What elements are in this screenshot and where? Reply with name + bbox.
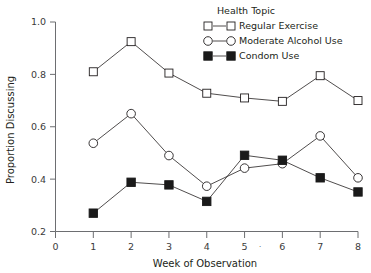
series-1-open-circle-marker bbox=[240, 164, 249, 173]
x-tick-labels: 012345678 bbox=[52, 241, 361, 252]
series-1-open-circle-marker bbox=[89, 139, 98, 148]
series-regular-exercise bbox=[89, 38, 362, 106]
series-0-open-square-marker bbox=[165, 69, 173, 77]
tick-5-annotation: · bbox=[259, 243, 261, 251]
legend-label-1: Moderate Alcohol Use bbox=[239, 35, 343, 46]
y-tick-labels: 0.20.40.60.81.0 bbox=[31, 16, 46, 237]
legend-title: Health Topic bbox=[217, 5, 275, 16]
series-2-filled-square-marker bbox=[127, 178, 135, 186]
series-2-filled-square-marker bbox=[316, 174, 324, 182]
x-axis-title: Week of Observation bbox=[153, 258, 257, 269]
x-tick-label: 4 bbox=[204, 241, 210, 252]
x-tick-marks bbox=[56, 232, 359, 239]
series-0-open-square-marker bbox=[203, 89, 211, 97]
y-tick-label: 0.8 bbox=[31, 69, 46, 80]
chart-canvas: 0.20.40.60.81.0 012345678 Proportion Dis… bbox=[0, 0, 371, 273]
legend-left-0-open-square-marker bbox=[204, 22, 212, 30]
series-group bbox=[89, 38, 362, 218]
x-tick-label: 6 bbox=[279, 241, 285, 252]
series-1-open-circle-marker bbox=[354, 174, 363, 183]
y-tick-label: 0.2 bbox=[31, 226, 46, 237]
series-2-filled-square-marker bbox=[278, 156, 286, 164]
series-2-filled-square-marker bbox=[240, 151, 248, 159]
series-1-open-circle-marker bbox=[316, 132, 325, 141]
series-2-filled-square-marker bbox=[354, 188, 362, 196]
y-axis-title: Proportion Discussing bbox=[5, 76, 16, 184]
x-tick-label: 1 bbox=[90, 241, 96, 252]
series-0-open-square-marker bbox=[354, 97, 362, 105]
legend-right-2-filled-square-marker bbox=[227, 52, 235, 60]
series-0-open-square-marker bbox=[89, 68, 97, 76]
legend: Health Topic Regular ExerciseModerate Al… bbox=[204, 5, 343, 61]
x-tick-label: 5 bbox=[242, 241, 248, 252]
x-tick-label: 8 bbox=[355, 241, 361, 252]
series-1-open-circle-marker bbox=[165, 151, 174, 160]
series-2-filled-square-marker bbox=[89, 209, 97, 217]
y-tick-label: 1.0 bbox=[31, 16, 46, 27]
x-tick-label: 2 bbox=[128, 241, 134, 252]
legend-left-2-filled-square-marker bbox=[204, 52, 212, 60]
y-tick-marks bbox=[50, 22, 56, 232]
x-tick-label: 0 bbox=[52, 241, 58, 252]
series-0-open-square-marker bbox=[278, 97, 286, 105]
series-0-open-square-marker bbox=[316, 72, 324, 80]
legend-item-condom-use[interactable]: Condom Use bbox=[204, 50, 300, 61]
y-tick-label: 0.6 bbox=[31, 121, 46, 132]
series-0-open-square-marker bbox=[241, 94, 249, 102]
legend-left-1-open-circle-marker bbox=[204, 37, 213, 46]
legend-label-0: Regular Exercise bbox=[239, 20, 318, 31]
x-tick-label: 3 bbox=[166, 241, 172, 252]
line-chart: 0.20.40.60.81.0 012345678 Proportion Dis… bbox=[0, 0, 371, 273]
series-1-open-circle-marker bbox=[202, 182, 211, 191]
series-1-open-circle-marker bbox=[127, 109, 136, 118]
legend-item-moderate-alcohol-use[interactable]: Moderate Alcohol Use bbox=[204, 35, 343, 46]
series-0-open-square-marker bbox=[127, 38, 135, 46]
legend-right-1-open-circle-marker bbox=[227, 37, 236, 46]
legend-entries: Regular ExerciseModerate Alcohol UseCond… bbox=[204, 20, 343, 61]
y-tick-label: 0.4 bbox=[31, 174, 46, 185]
series-2-filled-square-marker bbox=[165, 181, 173, 189]
legend-item-regular-exercise[interactable]: Regular Exercise bbox=[204, 20, 318, 31]
series-condom-use bbox=[89, 151, 362, 217]
legend-label-2: Condom Use bbox=[239, 50, 299, 61]
legend-right-0-open-square-marker bbox=[227, 22, 235, 30]
series-2-filled-square-marker bbox=[203, 197, 211, 205]
x-tick-label: 7 bbox=[317, 241, 323, 252]
